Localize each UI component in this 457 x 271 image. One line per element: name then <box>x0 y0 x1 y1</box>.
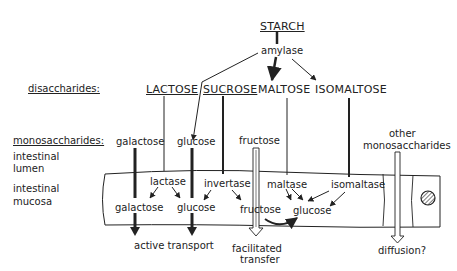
disaccharide-sucrose: SUCROSE <box>203 84 257 95</box>
row-label-lumen-1: intestinal <box>13 151 59 162</box>
mucosa-glucose: glucose <box>177 202 215 213</box>
disaccharide-isomaltose: ISOMALTOSE <box>315 84 387 95</box>
disaccharide-maltose: MALTOSE <box>258 84 310 95</box>
row-label-mucosa-1: intestinal <box>13 183 59 194</box>
transport-active: active transport <box>134 240 214 251</box>
transport-diffusion: diffusion? <box>378 245 426 256</box>
disaccharide-lactose: LACTOSE <box>146 84 198 95</box>
mucosa-glucose-2: glucose <box>293 205 331 216</box>
enzyme-invertase: invertase <box>204 178 251 189</box>
mucosa-galactose: galactose <box>115 202 163 213</box>
row-label-monosaccharides: monosaccharides: <box>13 135 104 146</box>
starch-label: STARCH <box>260 21 305 32</box>
row-label-mucosa-2: mucosa <box>13 196 52 207</box>
enzyme-maltase: maltase <box>267 179 307 190</box>
lumen-other: other <box>389 128 416 139</box>
cell-boundary-line <box>412 175 414 227</box>
amylase-label: amylase <box>261 45 303 56</box>
row-label-disaccharides: disaccharides: <box>28 83 100 94</box>
lumen-monosaccharides: monosaccharides <box>363 140 451 151</box>
diffusion-hollow-arrow <box>391 152 404 243</box>
lumen-galactose: galactose <box>116 136 164 147</box>
mucosa-fructose: fructose <box>240 204 281 215</box>
nucleus-icon <box>421 191 435 205</box>
lumen-glucose: glucose <box>177 136 215 147</box>
transport-facilitated-2: transfer <box>240 254 280 265</box>
enzyme-isomaltase: isomaltase <box>331 179 385 190</box>
row-label-lumen-2: lumen <box>13 163 44 174</box>
transport-facilitated-1: facilitated <box>232 243 282 254</box>
lumen-fructose: fructose <box>239 135 280 146</box>
enzyme-lactase: lactase <box>150 176 186 187</box>
